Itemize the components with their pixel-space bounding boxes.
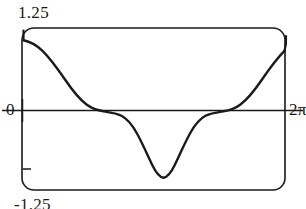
y-axis-max-label: 1.25 [18, 4, 49, 21]
function-plot-figure: 1.25 0 -1.25 2π [0, 0, 306, 209]
x-axis-max-label: 2π [289, 101, 306, 118]
curve-path [24, 40, 285, 178]
y-axis-zero-label: 0 [6, 101, 15, 118]
plot-canvas [0, 0, 306, 209]
y-axis-min-label: -1.25 [14, 196, 51, 209]
